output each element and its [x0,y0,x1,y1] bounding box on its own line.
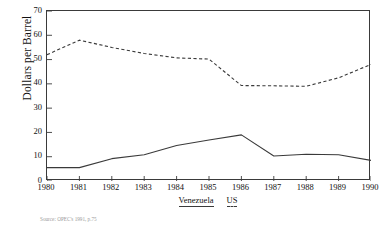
chart-figure: Dollars per Barrel 010203040506070 19801… [0,0,382,228]
chart-lines [47,11,371,181]
x-tick-label: 1986 [223,183,257,192]
legend-label: Venezuela [179,195,214,205]
x-tick-label: 1988 [288,183,322,192]
x-tick-label: 1985 [191,183,225,192]
series-line-venezuela [47,135,371,168]
y-tick-label: 70 [20,6,42,15]
x-tick-label: 1989 [321,183,355,192]
x-tick-label: 1984 [159,183,193,192]
x-tick-label: 1990 [353,183,382,192]
legend-item-us[interactable]: US [227,195,238,207]
y-tick-label: 20 [20,127,42,136]
source-note: Source: OPEC's 1991, p.75 [40,216,97,222]
x-tick-label: 1982 [94,183,128,192]
chart-legend: VenezuelaUS [46,195,370,207]
axis-tick-marks [47,11,371,181]
legend-label: US [227,195,238,205]
x-tick-label: 1981 [61,183,95,192]
legend-line-swatch [227,206,238,207]
legend-line-swatch [179,206,214,207]
x-tick-label: 1980 [29,183,63,192]
x-tick-label: 1987 [256,183,290,192]
y-tick-label: 10 [20,151,42,160]
y-tick-label: 30 [20,103,42,112]
x-tick-label: 1983 [126,183,160,192]
y-tick-label: 50 [20,54,42,63]
y-tick-label: 60 [20,30,42,39]
series-line-us [47,40,371,86]
plot-area [46,10,370,180]
y-tick-label: 40 [20,78,42,87]
legend-item-venezuela[interactable]: Venezuela [179,195,214,207]
data-series-group [47,40,371,168]
